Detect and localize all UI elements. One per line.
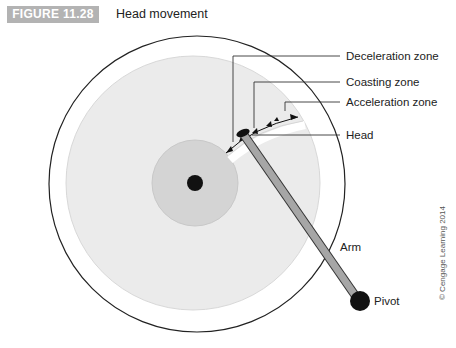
disk-head-diagram: Deceleration zone Coasting zone Accelera… [0, 0, 456, 348]
label-head: Head [346, 129, 374, 141]
label-coasting-zone: Coasting zone [346, 76, 420, 88]
spindle-icon [187, 175, 203, 191]
pivot [350, 291, 370, 311]
label-acceleration-zone: Acceleration zone [346, 96, 437, 108]
label-pivot: Pivot [374, 295, 400, 307]
label-arm: Arm [340, 241, 361, 253]
copyright-notice: © Cengage Learning 2014 [438, 206, 447, 300]
label-deceleration-zone: Deceleration zone [346, 50, 439, 62]
